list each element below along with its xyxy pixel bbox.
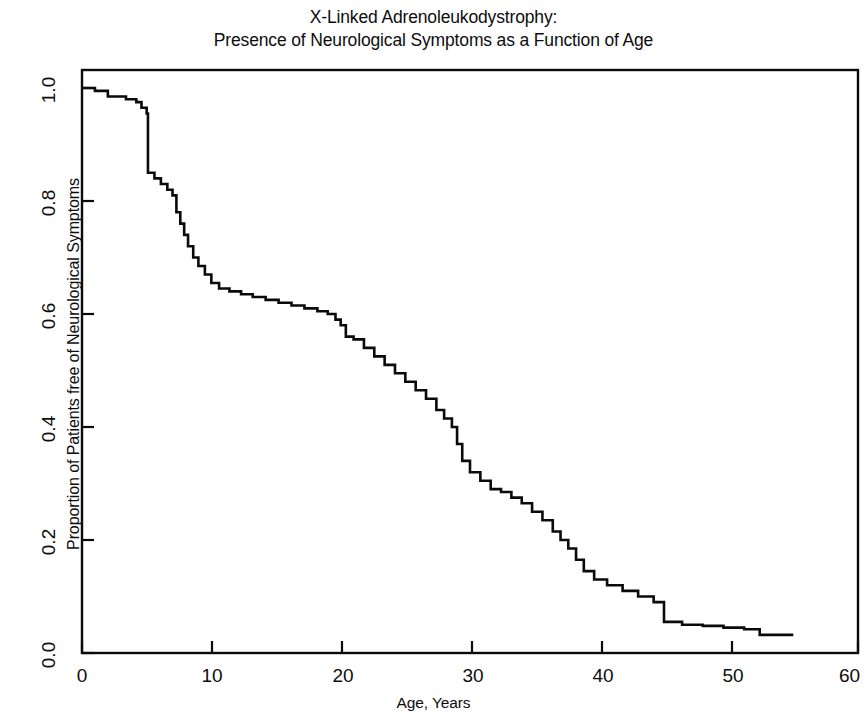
chart-figure: X-Linked Adrenoleukodystrophy: Presence … [0,0,867,719]
x-tick-marks [82,641,858,653]
plot-frame [82,70,858,653]
km-survival-curve [82,88,793,635]
plot-area [0,0,867,719]
y-tick-marks [82,88,94,653]
